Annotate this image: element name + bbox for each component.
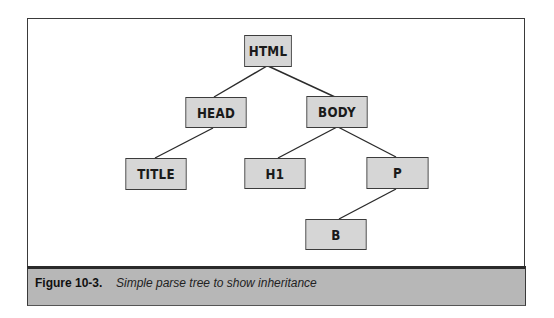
edge-body-p	[338, 127, 396, 157]
node-head: HEAD	[185, 97, 246, 128]
edge-html-body	[268, 66, 335, 97]
node-h1: H1	[244, 158, 305, 189]
node-body: BODY	[306, 96, 367, 128]
figure-caption-bar: Figure 10-3. Simple parse tree to show i…	[27, 266, 526, 306]
edge-p-b	[339, 189, 396, 219]
node-b: B	[305, 219, 366, 250]
edge-body-h1	[278, 127, 337, 158]
edge-head-title	[155, 128, 213, 158]
figure-label: Figure 10-3.	[35, 276, 102, 290]
figure-caption: Simple parse tree to show inheritance	[116, 276, 317, 290]
node-title: TITLE	[125, 158, 186, 190]
node-p: P	[366, 157, 428, 189]
edge-html-head	[214, 66, 267, 97]
node-html: HTML	[244, 35, 292, 67]
